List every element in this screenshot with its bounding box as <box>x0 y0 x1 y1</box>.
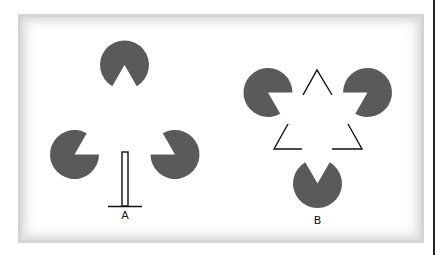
pacman-inducer-b-bottom <box>293 162 342 208</box>
kanizsa-figure: A B <box>0 0 441 255</box>
panel-b: B <box>244 68 393 227</box>
pacman-inducer-b-right <box>343 68 392 117</box>
panel-label-a: A <box>121 209 129 222</box>
outline-triangle-bottom-left-corner <box>274 124 302 149</box>
stem-rectangle <box>122 152 128 206</box>
outline-triangle-top-corner <box>303 70 332 95</box>
pacman-inducer-a-right <box>151 130 200 179</box>
panel-a: A <box>50 41 200 222</box>
panel-label-b: B <box>314 214 322 227</box>
pacman-inducer-a-left <box>50 130 99 179</box>
pacman-inducer-a-top <box>100 41 149 87</box>
outline-triangle-bottom-right-corner <box>332 124 362 149</box>
pacman-inducer-b-left <box>244 68 293 117</box>
